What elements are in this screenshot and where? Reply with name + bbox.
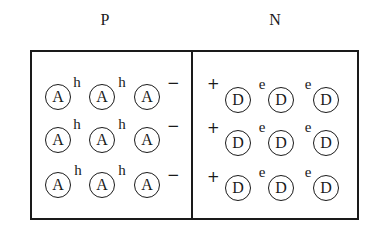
electron-label: e bbox=[256, 77, 268, 92]
negative-charge-sign: − bbox=[167, 168, 179, 183]
positive-charge-sign: + bbox=[207, 121, 219, 136]
acceptor-ion: A bbox=[134, 127, 160, 153]
hole-label: h bbox=[72, 163, 84, 178]
hole-label: h bbox=[116, 117, 128, 132]
acceptor-ion: A bbox=[89, 172, 115, 198]
negative-charge-sign: − bbox=[167, 76, 179, 91]
electron-label: e bbox=[256, 120, 268, 135]
hole-label: h bbox=[71, 75, 83, 90]
donor-ion: D bbox=[313, 175, 339, 201]
acceptor-ion: A bbox=[134, 84, 160, 110]
electron-label: e bbox=[302, 165, 314, 180]
donor-ion: D bbox=[225, 175, 251, 201]
hole-label: h bbox=[116, 75, 128, 90]
donor-ion: D bbox=[268, 87, 294, 113]
acceptor-ion: A bbox=[45, 127, 71, 153]
acceptor-ion: A bbox=[89, 84, 115, 110]
n-region-label: N bbox=[260, 11, 290, 29]
p-region-label: P bbox=[90, 11, 120, 29]
acceptor-ion: A bbox=[45, 84, 71, 110]
acceptor-ion: A bbox=[134, 172, 160, 198]
acceptor-ion: A bbox=[45, 172, 71, 198]
donor-ion: D bbox=[225, 87, 251, 113]
acceptor-ion: A bbox=[89, 127, 115, 153]
donor-ion: D bbox=[225, 130, 251, 156]
electron-label: e bbox=[302, 120, 314, 135]
positive-charge-sign: + bbox=[207, 170, 219, 185]
donor-ion: D bbox=[313, 130, 339, 156]
hole-label: h bbox=[71, 117, 83, 132]
donor-ion: D bbox=[268, 130, 294, 156]
junction-boundary-line bbox=[191, 50, 193, 218]
donor-ion: D bbox=[313, 87, 339, 113]
electron-label: e bbox=[302, 77, 314, 92]
donor-ion: D bbox=[268, 175, 294, 201]
electron-label: e bbox=[256, 165, 268, 180]
negative-charge-sign: − bbox=[167, 119, 179, 134]
positive-charge-sign: + bbox=[207, 77, 219, 92]
hole-label: h bbox=[116, 163, 128, 178]
